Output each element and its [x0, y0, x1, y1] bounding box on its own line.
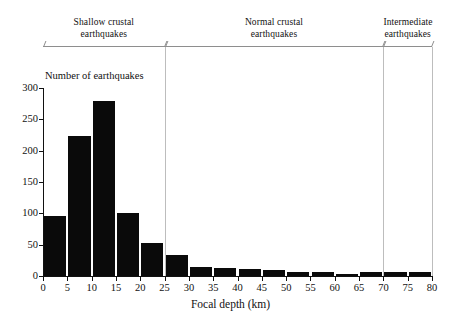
- bar: [166, 255, 188, 276]
- x-axis-tick-label: 15: [111, 282, 122, 293]
- y-axis-tick-label: 150: [22, 177, 38, 188]
- annotation-shallow-crustal-label: Shallow crustal earthquakes: [43, 17, 165, 40]
- bar: [239, 269, 261, 276]
- annotation-line-1: Shallow crustal: [43, 17, 165, 29]
- x-axis-tick: [238, 277, 239, 281]
- x-axis-tick: [359, 277, 360, 281]
- y-axis-tick-label: 100: [22, 208, 38, 219]
- x-axis-tick-label: 10: [86, 282, 97, 293]
- x-axis-tick-label: 20: [135, 282, 146, 293]
- x-axis-tick-label: 65: [354, 282, 365, 293]
- x-axis-tick-label: 75: [402, 282, 413, 293]
- annotation-line-2: earthquakes: [43, 29, 165, 41]
- plot-area: 050100150200250300 051015202530354045505…: [43, 88, 432, 276]
- y-axis-tick-label: 250: [22, 114, 38, 125]
- x-axis-tick-label: 25: [159, 282, 170, 293]
- x-axis-tick-label: 35: [208, 282, 219, 293]
- x-axis-tick-label: 5: [65, 282, 70, 293]
- bar: [141, 243, 163, 276]
- x-axis-tick: [43, 277, 44, 281]
- x-axis-tick: [262, 277, 263, 281]
- x-axis-tick-label: 30: [184, 282, 195, 293]
- annotation-normal-crustal-label: Normal crustal earthquakes: [165, 17, 384, 40]
- bar: [117, 213, 139, 276]
- x-axis-tick-label: 45: [257, 282, 268, 293]
- y-axis-tick-label: 300: [22, 83, 38, 94]
- bar: [336, 274, 358, 277]
- x-axis-tick: [189, 277, 190, 281]
- bracket-line: [43, 46, 165, 47]
- annotation-intermediate: Intermediate earthquakes: [383, 17, 432, 47]
- x-axis-tick: [408, 277, 409, 281]
- bar: [214, 268, 236, 276]
- y-axis-tick-label: 0: [33, 271, 38, 282]
- x-axis-tick-label: 0: [40, 282, 45, 293]
- bar: [312, 272, 334, 276]
- annotation-line-2: earthquakes: [383, 29, 432, 41]
- bracket-line: [165, 46, 384, 47]
- class-boundary-guide: [432, 47, 433, 276]
- bar: [384, 272, 406, 276]
- annotation-shallow-crustal: Shallow crustal earthquakes: [43, 17, 165, 47]
- x-axis-tick-label: 50: [281, 282, 292, 293]
- annotation-line-1: Intermediate: [383, 17, 432, 29]
- bar: [360, 272, 382, 276]
- x-axis-tick: [213, 277, 214, 281]
- x-axis-label: Focal depth (km): [0, 298, 461, 311]
- x-axis-tick-label: 80: [427, 282, 438, 293]
- x-axis-tick: [92, 277, 93, 281]
- bar: [44, 216, 66, 276]
- x-axis-tick: [310, 277, 311, 281]
- x-axis-tick: [335, 277, 336, 281]
- y-axis-tick-label: 50: [28, 239, 39, 250]
- y-axis-tick-label: 200: [22, 145, 38, 156]
- x-axis-tick: [432, 277, 433, 281]
- y-axis-label: Number of earthquakes: [45, 70, 144, 82]
- bar: [287, 272, 309, 276]
- x-axis-tick: [116, 277, 117, 281]
- depth-class-annotations: Shallow crustal earthquakes Normal crust…: [0, 0, 461, 60]
- bar: [263, 270, 285, 276]
- earthquake-depth-histogram: Shallow crustal earthquakes Normal crust…: [0, 0, 461, 326]
- bar: [93, 101, 115, 276]
- bar: [409, 272, 431, 276]
- annotation-intermediate-label: Intermediate earthquakes: [383, 17, 432, 40]
- annotation-normal-crustal: Normal crustal earthquakes: [165, 17, 384, 47]
- x-axis-tick-label: 55: [305, 282, 316, 293]
- bar-series: [43, 88, 432, 276]
- x-axis-tick: [383, 277, 384, 281]
- x-axis-tick-label: 40: [232, 282, 243, 293]
- x-axis-tick: [67, 277, 68, 281]
- bracket-line: [383, 46, 432, 47]
- annotation-line-1: Normal crustal: [165, 17, 384, 29]
- bar: [190, 267, 212, 276]
- x-axis-tick: [165, 277, 166, 281]
- x-axis-tick: [286, 277, 287, 281]
- x-axis-tick-label: 70: [378, 282, 389, 293]
- x-axis-tick: [140, 277, 141, 281]
- bar: [68, 136, 90, 276]
- annotation-line-2: earthquakes: [165, 29, 384, 41]
- x-axis-tick-label: 60: [330, 282, 341, 293]
